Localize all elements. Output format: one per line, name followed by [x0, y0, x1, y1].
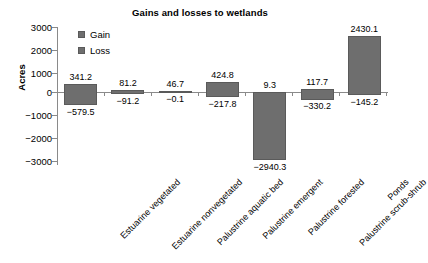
y-tick-mark [52, 27, 57, 28]
y-axis-spine [57, 27, 58, 165]
x-tick-mark [104, 92, 105, 96]
loss-value-label: −217.8 [193, 100, 253, 109]
y-tick-label: −1000 [0, 111, 52, 121]
bar-palustrine-scrub-shrub[interactable] [301, 89, 334, 99]
x-category-label: Estuarine vegetated [118, 177, 182, 241]
x-tick-mark [292, 92, 293, 96]
bar-palustrine-emergent[interactable] [206, 82, 239, 97]
legend-item-loss[interactable]: Loss [78, 46, 110, 56]
y-tick-label: −2000 [0, 134, 52, 144]
gain-value-label: 46.7 [145, 80, 205, 89]
y-tick-mark [52, 50, 57, 51]
bar-palustrine-aquatic-bed[interactable] [159, 91, 192, 93]
bar-estuarine-vegetated[interactable] [64, 84, 97, 105]
y-tick-label: 3000 [0, 23, 52, 33]
gain-value-label: 117.7 [287, 78, 347, 87]
x-tick-mark [57, 92, 58, 96]
loss-value-label: −2940.3 [240, 163, 300, 172]
gain-value-label: 424.8 [193, 71, 253, 80]
loss-value-label: −145.2 [334, 98, 394, 107]
legend-label: Gain [90, 30, 110, 40]
x-tick-mark [339, 92, 340, 96]
y-tick-mark [52, 138, 57, 139]
y-tick-label: 0 [0, 88, 52, 98]
y-tick-label: 1000 [0, 69, 52, 79]
bar-ponds[interactable] [348, 36, 381, 96]
y-tick-mark [52, 161, 57, 162]
loss-value-label: −579.5 [51, 108, 111, 117]
legend-swatch-icon [78, 47, 85, 54]
gain-value-label: 2430.1 [334, 25, 394, 34]
chart-legend: Gain Loss [78, 30, 110, 61]
y-tick-label: −3000 [0, 157, 52, 167]
bar-estuarine-nonvegetated[interactable] [111, 90, 144, 94]
chart-title: Gains and losses to wetlands [0, 7, 400, 18]
x-tick-mark [245, 92, 246, 96]
legend-swatch-icon [78, 31, 85, 38]
x-tick-mark [386, 92, 387, 96]
legend-item-gain[interactable]: Gain [78, 30, 110, 40]
legend-label: Loss [90, 46, 110, 56]
y-tick-label: 2000 [0, 46, 52, 56]
bar-palustrine-forested[interactable] [253, 92, 286, 160]
x-category-label: Estuarine nonvegetated [170, 177, 244, 251]
